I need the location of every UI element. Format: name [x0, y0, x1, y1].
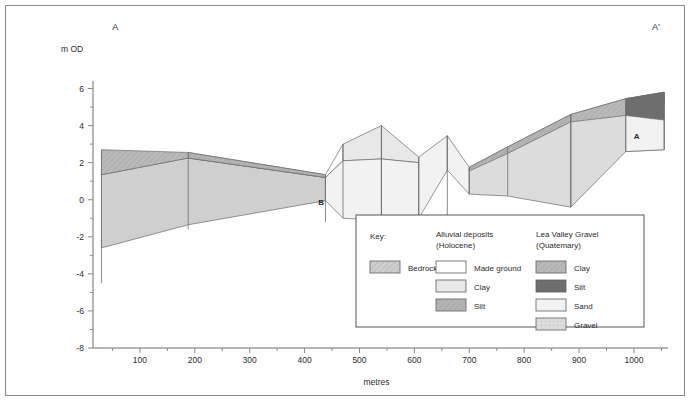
x-tick-label: 600	[407, 355, 421, 365]
legend-swatch-sand	[536, 299, 566, 311]
legend-label-silt: Silt	[474, 302, 486, 311]
x-tick-label: 500	[352, 355, 366, 365]
figure-root: -8-6-4-202461002003004005006007008009001…	[0, 0, 692, 403]
x-tick-label: 800	[517, 355, 531, 365]
legend-column-subheading-1: (Holocene)	[436, 241, 475, 250]
x-tick-label: 300	[243, 355, 257, 365]
geology-unit	[626, 115, 664, 151]
y-axis-unit-label: m OD	[61, 44, 83, 54]
geology-unit	[447, 136, 469, 194]
legend-label-sand: Sand	[574, 302, 593, 311]
y-tick-label: 2	[79, 158, 84, 168]
geology-unit	[343, 126, 381, 161]
legend-label-gravel: Gravel	[574, 321, 598, 330]
legend-label-bedrock: Bedrock	[408, 264, 438, 273]
y-tick-label: -8	[76, 343, 84, 353]
section-marker-a: A	[112, 22, 118, 32]
legend-swatch-gravel-pattern	[536, 318, 566, 330]
geology-unit	[381, 126, 418, 163]
geology-unit	[419, 136, 448, 218]
legend-label-clay: Clay	[474, 283, 490, 292]
legend-swatch-clay	[436, 280, 466, 292]
legend-label-made-ground: Made ground	[474, 264, 521, 273]
legend-swatch-made-ground	[436, 261, 466, 273]
legend-swatch-clay-pattern	[536, 261, 566, 273]
legend-label-clay: Clay	[574, 264, 590, 273]
y-tick-label: -2	[76, 232, 84, 242]
y-tick-label: 0	[79, 195, 84, 205]
legend-panel: Key:BedrockAlluvial deposits(Holocene)Ma…	[356, 215, 644, 330]
x-tick-label: 400	[297, 355, 311, 365]
inline-label-a-1: A	[634, 132, 640, 141]
legend-swatch-silt-pattern	[436, 299, 466, 311]
y-tick-label: -6	[76, 306, 84, 316]
x-tick-label: 1000	[625, 355, 644, 365]
geology-unit	[381, 159, 418, 220]
section-marker-a-prime: A'	[652, 22, 660, 32]
legend-swatch-silt	[536, 280, 566, 292]
legend-label-silt: Silt	[574, 283, 586, 292]
legend-column-subheading-2: (Quatemary)	[536, 241, 581, 250]
inline-label-b-0: B	[318, 198, 324, 207]
legend-column-heading-1: Alluvial deposits	[436, 230, 493, 239]
x-axis-title: metres	[364, 377, 390, 387]
legend-swatch-bedrock-pattern	[370, 261, 400, 273]
y-tick-label: -4	[76, 269, 84, 279]
y-tick-label: 6	[79, 84, 84, 94]
x-tick-label: 700	[462, 355, 476, 365]
x-tick-label: 200	[188, 355, 202, 365]
legend-key-title: Key:	[370, 232, 386, 241]
legend-column-heading-2: Lea Valley Gravel	[536, 230, 599, 239]
x-tick-label: 100	[133, 355, 147, 365]
y-tick-label: 4	[79, 121, 84, 131]
cross-section-chart: -8-6-4-202461002003004005006007008009001…	[0, 0, 692, 403]
x-tick-label: 900	[572, 355, 586, 365]
